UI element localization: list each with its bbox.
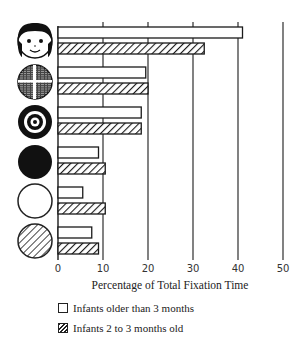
x-tick-label: 20 (142, 263, 155, 274)
bar-older-3 (58, 147, 99, 158)
x-tick-label: 10 (97, 263, 110, 274)
bar-younger-4 (58, 203, 105, 214)
x-tick-label: 0 (55, 263, 61, 274)
bar-younger-1 (58, 83, 148, 94)
black-circle-icon (18, 145, 52, 179)
legend-swatch-hatched (58, 323, 68, 333)
bars (58, 27, 243, 254)
x-tick-label: 50 (277, 263, 290, 274)
legend-item-younger: Infants 2 to 3 months old (58, 322, 183, 334)
legend-swatch-plain (58, 303, 68, 313)
bar-older-5 (58, 227, 92, 238)
x-tick-label: 30 (187, 263, 200, 274)
bar-older-0 (58, 27, 243, 38)
striped-circle-icon (18, 224, 52, 258)
bar-younger-3 (58, 163, 105, 174)
legend-label-younger: Infants 2 to 3 months old (73, 322, 183, 334)
face-icon (18, 23, 52, 58)
bar-younger-2 (58, 123, 141, 134)
x-tick-label: 40 (232, 263, 245, 274)
legend-item-older: Infants older than 3 months (58, 302, 194, 314)
bar-older-4 (58, 187, 83, 198)
legend-label-older: Infants older than 3 months (73, 302, 194, 314)
bar-younger-5 (58, 243, 99, 254)
x-tick-labels: 01020304050 (55, 263, 290, 274)
fixation-chart: 01020304050 Percentage of Total Fixation… (0, 0, 308, 300)
newsprint-icon (17, 65, 53, 99)
bar-older-1 (58, 67, 146, 78)
bar-younger-0 (58, 43, 204, 54)
gridlines (58, 22, 283, 260)
bullseye-icon (18, 105, 52, 139)
white-circle-icon (18, 184, 52, 218)
x-axis-title: Percentage of Total Fixation Time (92, 279, 249, 292)
bar-older-2 (58, 107, 141, 118)
